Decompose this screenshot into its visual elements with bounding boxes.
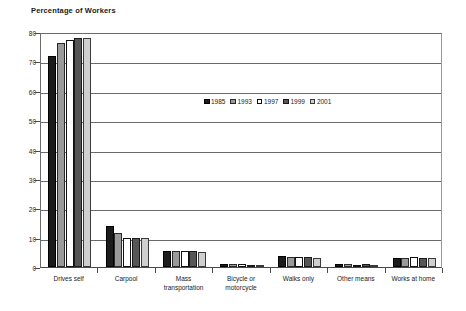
bar bbox=[83, 38, 91, 267]
bar bbox=[198, 252, 206, 267]
chart-root: Percentage of Workers 01020304050607080 … bbox=[0, 0, 466, 311]
bar bbox=[370, 265, 378, 267]
plot-area bbox=[40, 33, 442, 268]
bar bbox=[141, 238, 149, 267]
chart-legend: 19851993199719992001 bbox=[204, 98, 331, 105]
x-axis-category-label: Masstransportation bbox=[152, 275, 216, 292]
bar bbox=[278, 256, 286, 267]
legend-entry: 1999 bbox=[283, 98, 304, 105]
legend-entry: 2001 bbox=[310, 98, 331, 105]
bar bbox=[393, 258, 401, 267]
bar bbox=[48, 56, 56, 268]
legend-label: 1993 bbox=[237, 98, 251, 105]
legend-swatch-icon bbox=[230, 99, 236, 105]
y-axis-tick-label: 80 bbox=[0, 30, 36, 37]
y-axis-tick-label: 0 bbox=[0, 265, 36, 272]
y-axis-tick-label: 60 bbox=[0, 88, 36, 95]
legend-label: 1985 bbox=[211, 98, 225, 105]
y-axis-tick-label: 30 bbox=[0, 176, 36, 183]
bar bbox=[313, 258, 321, 267]
x-axis-category-label-line: Walks only bbox=[283, 275, 314, 282]
x-axis-category-label-line: Bicycle or bbox=[227, 275, 255, 282]
bar bbox=[106, 226, 114, 267]
bar bbox=[229, 264, 237, 267]
bar bbox=[172, 251, 180, 267]
legend-swatch-icon bbox=[257, 99, 263, 105]
legend-label: 2001 bbox=[317, 98, 331, 105]
x-axis-tick-mark bbox=[212, 268, 213, 273]
x-axis-category-label-line: Carpool bbox=[115, 275, 138, 282]
y-axis-tick-label: 70 bbox=[0, 59, 36, 66]
bar-group bbox=[271, 34, 328, 267]
legend-swatch-icon bbox=[310, 99, 316, 105]
legend-swatch-icon bbox=[283, 99, 289, 105]
x-axis-category-label-line: transportation bbox=[164, 284, 204, 291]
bar bbox=[428, 258, 436, 267]
x-axis-category-label: Walks only bbox=[266, 275, 330, 284]
bar bbox=[304, 257, 312, 267]
bar bbox=[123, 238, 131, 267]
bar bbox=[256, 265, 264, 267]
bar bbox=[114, 233, 122, 267]
x-axis-tick-mark bbox=[97, 268, 98, 273]
bar bbox=[295, 257, 303, 267]
y-axis-tick-mark bbox=[34, 268, 40, 269]
chart-title: Percentage of Workers bbox=[31, 6, 116, 15]
bar bbox=[362, 264, 370, 267]
x-axis-tick-mark bbox=[385, 268, 386, 273]
bar bbox=[401, 258, 409, 267]
bar bbox=[353, 265, 361, 267]
y-axis-tick-label: 40 bbox=[0, 147, 36, 154]
bar-group bbox=[328, 34, 385, 267]
x-axis-category-label: Other means bbox=[324, 275, 388, 284]
legend-label: 1999 bbox=[290, 98, 304, 105]
legend-entry: 1997 bbox=[257, 98, 278, 105]
bar-group bbox=[156, 34, 213, 267]
bar bbox=[410, 257, 418, 267]
x-axis-category-label-line: Mass bbox=[176, 275, 192, 282]
bar bbox=[74, 38, 82, 267]
bar bbox=[163, 251, 171, 267]
bar bbox=[181, 251, 189, 267]
bar bbox=[287, 257, 295, 267]
bar bbox=[57, 43, 65, 267]
legend-entry: 1985 bbox=[204, 98, 225, 105]
bar bbox=[220, 264, 228, 267]
legend-label: 1997 bbox=[264, 98, 278, 105]
x-axis-tick-mark bbox=[155, 268, 156, 273]
bar bbox=[419, 258, 427, 267]
bar bbox=[189, 251, 197, 267]
y-axis-tick-label: 50 bbox=[0, 118, 36, 125]
bar bbox=[335, 264, 343, 267]
y-axis-tick-label: 10 bbox=[0, 235, 36, 242]
bar bbox=[238, 264, 246, 267]
bar-group bbox=[41, 34, 98, 267]
x-axis-tick-mark bbox=[442, 268, 443, 273]
legend-swatch-icon bbox=[204, 99, 210, 105]
x-axis-tick-mark bbox=[270, 268, 271, 273]
legend-entry: 1993 bbox=[230, 98, 251, 105]
y-axis-tick-label: 20 bbox=[0, 206, 36, 213]
bar-group bbox=[213, 34, 270, 267]
bar bbox=[132, 238, 140, 267]
x-axis-category-label: Carpool bbox=[94, 275, 158, 284]
x-axis-category-label: Bicycle ormotorcycle bbox=[209, 275, 273, 292]
x-axis-category-label-line: Other means bbox=[337, 275, 375, 282]
bar-group bbox=[98, 34, 155, 267]
bar bbox=[344, 264, 352, 267]
x-axis-category-label-line: Works at home bbox=[391, 275, 435, 282]
x-axis-category-label-line: Drives self bbox=[54, 275, 84, 282]
x-axis-category-label: Drives self bbox=[37, 275, 101, 284]
bar bbox=[66, 40, 74, 267]
bar bbox=[247, 265, 255, 267]
x-axis-tick-mark bbox=[327, 268, 328, 273]
x-axis-category-label: Works at home bbox=[381, 275, 445, 284]
bar-group bbox=[386, 34, 443, 267]
x-axis-category-label-line: motorcycle bbox=[225, 284, 256, 291]
